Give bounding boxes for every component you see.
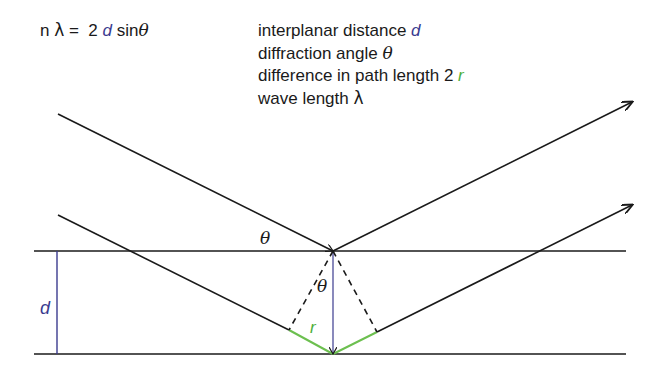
incident-ray-bottom (58, 215, 289, 330)
bragg-diffraction-diagram (0, 0, 660, 369)
wavefront-right (333, 251, 377, 332)
r-label: r (310, 318, 316, 338)
d-label: d (40, 298, 50, 319)
path-difference-right (333, 332, 377, 354)
theta-label-top: θ (260, 228, 270, 248)
diffracted-ray-top (333, 102, 632, 251)
incident-ray-top (58, 114, 333, 251)
theta-label-inner: θ (317, 276, 327, 296)
diffracted-ray-bottom (377, 205, 632, 332)
